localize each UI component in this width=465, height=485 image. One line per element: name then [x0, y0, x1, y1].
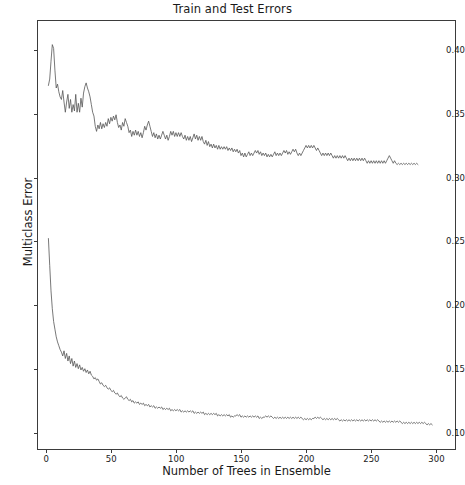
test-error-line	[48, 45, 418, 165]
x-tick-mark	[241, 450, 242, 453]
plot-area	[37, 20, 456, 450]
x-tick-label: 250	[351, 454, 391, 464]
x-tick-label: 0	[26, 454, 66, 464]
y-tick-label: 0.40	[434, 45, 465, 55]
y-tick-label: 0.25	[434, 236, 465, 246]
y-tick-mark	[34, 241, 37, 242]
train-error-line	[48, 239, 432, 425]
x-tick-mark	[176, 450, 177, 453]
y-tick-label: 0.15	[434, 364, 465, 374]
y-tick-label: 0.35	[434, 109, 465, 119]
x-tick-mark	[46, 450, 47, 453]
x-tick-mark	[371, 450, 372, 453]
x-tick-label: 150	[221, 454, 261, 464]
chart-figure: Train and Test Errors Multiclass Error 0…	[0, 0, 465, 485]
y-tick-mark	[34, 433, 37, 434]
x-tick-label: 200	[286, 454, 326, 464]
y-tick-mark	[34, 114, 37, 115]
y-tick-mark	[34, 305, 37, 306]
y-tick-mark	[34, 50, 37, 51]
y-axis-label: Multiclass Error	[21, 122, 35, 322]
x-tick-mark	[436, 450, 437, 453]
series-lines	[38, 21, 456, 450]
y-tick-mark	[34, 178, 37, 179]
chart-title: Train and Test Errors	[0, 2, 465, 16]
x-axis-label: Number of Trees in Ensemble	[37, 464, 456, 478]
x-tick-label: 50	[91, 454, 131, 464]
y-tick-label: 0.10	[434, 428, 465, 438]
x-tick-mark	[306, 450, 307, 453]
x-tick-label: 100	[156, 454, 196, 464]
y-tick-label: 0.30	[434, 173, 465, 183]
y-tick-label: 0.20	[434, 300, 465, 310]
x-tick-mark	[111, 450, 112, 453]
x-tick-label: 300	[416, 454, 456, 464]
y-tick-mark	[34, 369, 37, 370]
